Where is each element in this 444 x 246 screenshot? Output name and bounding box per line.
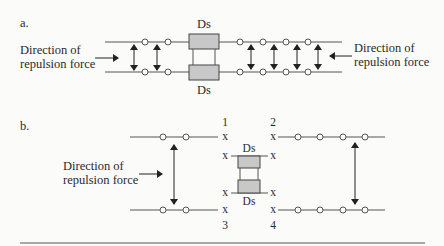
b-caption-line2: repulsion force bbox=[63, 173, 139, 187]
ds-label-top: Ds bbox=[197, 17, 211, 31]
desmosome-b: Ds Ds bbox=[231, 142, 268, 207]
left-caption-line2: repulsion force bbox=[20, 57, 96, 71]
ds-label-bottom: Ds bbox=[197, 83, 211, 97]
left-caption-line1: Direction of bbox=[20, 43, 82, 57]
x-mark: x bbox=[222, 130, 228, 142]
particle-circle bbox=[142, 69, 148, 75]
particle-circle bbox=[362, 134, 368, 140]
b-caption-line1: Direction of bbox=[63, 159, 125, 173]
particle-circle bbox=[317, 134, 323, 140]
particle-circle bbox=[237, 39, 243, 45]
particle-circle bbox=[305, 39, 311, 45]
repulsion-force-diagram: a. Direction of repulsion force Ds Ds bbox=[0, 0, 444, 246]
corner-label-2: 2 bbox=[270, 116, 276, 128]
particle-circle bbox=[295, 134, 301, 140]
particle-circle bbox=[160, 134, 166, 140]
corner-label-1: 1 bbox=[222, 116, 228, 128]
desmosome-plaque-top bbox=[189, 34, 219, 49]
corner-label-3: 3 bbox=[222, 219, 228, 231]
particle-circle bbox=[260, 39, 266, 45]
x-mark: x bbox=[270, 203, 276, 215]
x-mark: x bbox=[270, 186, 276, 198]
corner-label-4: 4 bbox=[270, 219, 276, 231]
particle-circle bbox=[165, 69, 171, 75]
desmosome-plaque-top bbox=[238, 156, 260, 168]
desmosome-plaque-bottom bbox=[189, 65, 219, 80]
particle-circle bbox=[295, 207, 301, 213]
particle-circle bbox=[183, 134, 189, 140]
particle-circle bbox=[283, 69, 289, 75]
panel-b: b. Direction of repulsion force 1 2 3 4 … bbox=[20, 116, 385, 231]
particle-circle bbox=[142, 39, 148, 45]
particle-circle bbox=[165, 39, 171, 45]
x-mark: x bbox=[222, 149, 228, 161]
particle-circle bbox=[340, 134, 346, 140]
ds-label-bottom: Ds bbox=[243, 195, 256, 207]
particle-circle bbox=[305, 69, 311, 75]
x-mark: x bbox=[270, 149, 276, 161]
particle-circle bbox=[160, 207, 166, 213]
particle-circle bbox=[317, 207, 323, 213]
x-mark: x bbox=[222, 186, 228, 198]
desmosome-a: Ds Ds bbox=[189, 17, 219, 97]
particle-circle bbox=[283, 39, 289, 45]
right-caption-line2: repulsion force bbox=[354, 55, 430, 69]
panel-a-label: a. bbox=[20, 16, 29, 30]
panel-b-label: b. bbox=[20, 119, 29, 133]
right-caption-line1: Direction of bbox=[354, 41, 416, 55]
ds-label-top: Ds bbox=[243, 142, 256, 154]
x-mark: x bbox=[222, 203, 228, 215]
particle-circle bbox=[362, 207, 368, 213]
desmosome-plaque-bottom bbox=[238, 180, 260, 193]
x-mark: x bbox=[270, 130, 276, 142]
panel-a: a. Direction of repulsion force Ds Ds bbox=[20, 16, 430, 97]
particle-circle bbox=[260, 69, 266, 75]
particle-circle bbox=[237, 69, 243, 75]
particle-circle bbox=[340, 207, 346, 213]
particle-circle bbox=[183, 207, 189, 213]
